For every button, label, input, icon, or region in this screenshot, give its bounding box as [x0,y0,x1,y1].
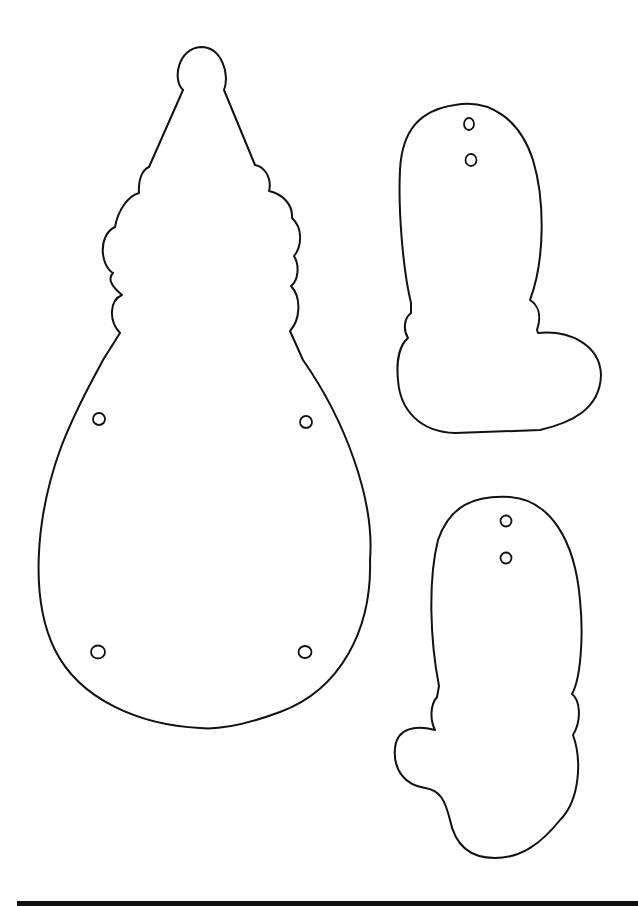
hole-icon [93,413,105,425]
bottom-border [17,901,638,906]
hole-icon [501,553,512,564]
gnome-body-shape [39,47,371,728]
template-canvas [0,0,638,906]
boot-shape [397,104,601,433]
boot-outline [397,104,601,433]
hole-icon [300,416,312,428]
hole-icon [91,646,105,659]
gnome-outline [39,47,371,728]
mitten-shape [395,497,582,858]
mitten-outline [395,497,582,858]
hole-icon [501,516,512,527]
hole-icon [466,154,477,166]
hole-icon [299,646,312,658]
hole-icon [464,118,474,130]
